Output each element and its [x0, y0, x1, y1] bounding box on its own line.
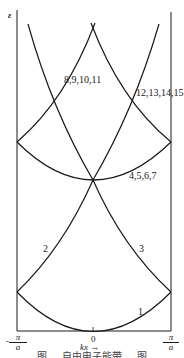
- band-2-curve: [17, 180, 93, 292]
- minus-sign: -: [6, 337, 9, 346]
- band-label-12-15: 12,13,14,15: [136, 88, 184, 98]
- band-1-curve: [17, 292, 171, 332]
- band-label-1: 1: [138, 307, 143, 317]
- band-label-2: 2: [43, 244, 48, 254]
- band-label-3: 3: [139, 244, 144, 254]
- tick-numerator: π: [162, 333, 180, 342]
- band-label-8-11: 8,9,10,11: [64, 75, 101, 85]
- band-label-4-7: 4,5,6,7: [129, 171, 157, 181]
- band-right-up-curve: [91, 23, 171, 142]
- band-left-down-curve: [28, 24, 93, 180]
- tick-numerator: π: [8, 333, 28, 342]
- band-3-curve: [93, 180, 171, 292]
- y-axis-label: ε: [8, 10, 12, 20]
- band-right-down-curve: [93, 24, 159, 180]
- figure-caption: 图 … 自由电子能带 … 图: [0, 348, 184, 358]
